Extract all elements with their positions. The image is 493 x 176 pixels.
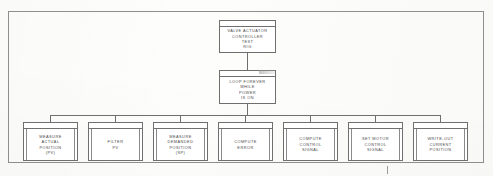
diagram-page: VALVE ACTUATOR CONTROLLER TEST RIG LOOP …: [0, 0, 493, 176]
node-body: VALVE ACTUATOR CONTROLLER TEST RIG: [220, 27, 275, 52]
connector-drop-3: [180, 115, 181, 122]
node-text-line: (SP): [176, 150, 186, 156]
node-body: WRITE-OUT CURRENT POSITION: [416, 129, 465, 160]
node-measure-demanded-position: MEASURE DEMANDED POSITION (SP): [153, 122, 208, 161]
node-body: COMPUTE ERROR: [221, 129, 270, 160]
node-body: MEASURE ACTUAL POSITION (PV): [26, 129, 75, 160]
scan-artifact-mark: [259, 70, 275, 74]
node-write-out-current-position: WRITE-OUT CURRENT POSITION: [413, 122, 468, 161]
node-body: SET MOTOR CONTROL SIGNAL: [351, 129, 400, 160]
node-body: COMPUTE CONTROL SIGNAL: [286, 129, 335, 160]
scan-artifact-tick: [387, 166, 388, 174]
node-body: FILTER PV: [91, 129, 140, 160]
connector-drop-4: [245, 115, 246, 122]
connector-drop-6: [375, 115, 376, 122]
node-text-line: POSITION: [429, 147, 451, 153]
node-valve-actuator-controller-test-rig: VALVE ACTUATOR CONTROLLER TEST RIG: [219, 20, 276, 53]
node-set-motor-control-signal: SET MOTOR CONTROL SIGNAL: [348, 122, 403, 161]
connector-drop-5: [310, 115, 311, 122]
connector-drop-1: [50, 115, 51, 122]
connector-drop-7: [440, 115, 441, 122]
node-text-line: (PV): [46, 150, 56, 156]
connector-loop-to-bus: [247, 104, 248, 115]
node-text-line: PV: [112, 144, 118, 150]
connector-root-to-loop: [247, 53, 248, 70]
node-measure-actual-position: MEASURE ACTUAL POSITION (PV): [23, 122, 78, 161]
node-text-line: ERROR: [237, 144, 253, 150]
node-text-line: IS ON: [241, 95, 254, 101]
node-compute-control-signal: COMPUTE CONTROL SIGNAL: [283, 122, 338, 161]
node-text-line: SIGNAL: [367, 147, 384, 153]
node-loop-forever-while-power-is-on: LOOP FOREVER WHILE POWER IS ON: [219, 70, 276, 104]
node-filter-pv: FILTER PV: [88, 122, 143, 161]
node-text-line: RIG: [243, 44, 251, 50]
connector-drop-2: [115, 115, 116, 122]
node-body: LOOP FOREVER WHILE POWER IS ON: [220, 77, 275, 103]
node-text-line: SIGNAL: [302, 147, 319, 153]
node-compute-error: COMPUTE ERROR: [218, 122, 273, 161]
node-body: MEASURE DEMANDED POSITION (SP): [156, 129, 205, 160]
